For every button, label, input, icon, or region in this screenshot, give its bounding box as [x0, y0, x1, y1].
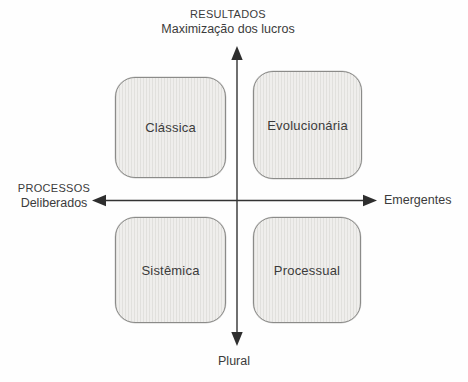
quadrant-top-right: Evolucionária [253, 71, 362, 179]
quadrant-bottom-left: Sistêmica [115, 217, 226, 323]
arrowhead-right-icon [363, 195, 377, 206]
arrowhead-left-icon [92, 195, 106, 206]
axis-label-right: Emergentes [384, 193, 464, 208]
quadrant-label-classica: Clássica [145, 120, 196, 135]
arrowhead-down-icon [231, 332, 242, 346]
quadrant-label-evolucionaria: Evolucionária [267, 118, 348, 133]
axis-label-top-line2: Maximização dos lucros [78, 22, 378, 37]
quadrant-label-processual: Processual [274, 263, 340, 278]
quadrant-bottom-right: Processual [253, 217, 361, 323]
axis-label-bottom: Plural [184, 354, 284, 369]
axis-label-left-line1: PROCESSOS [16, 181, 92, 196]
axis-label-left-line2: Deliberados [16, 196, 92, 211]
quadrant-top-left: Clássica [115, 77, 226, 178]
axis-label-top-line1: RESULTADOS [78, 7, 378, 22]
quadrant-label-sistemica: Sistêmica [141, 263, 199, 278]
arrowhead-up-icon [231, 46, 242, 60]
quadrant-diagram: Clássica Evolucionária Sistêmica Process… [0, 0, 468, 382]
axis-label-left: PROCESSOS Deliberados [16, 181, 92, 211]
axis-label-top: RESULTADOS Maximização dos lucros [78, 7, 378, 37]
